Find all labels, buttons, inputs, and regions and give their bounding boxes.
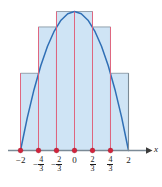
fraction-numerator: 4: [107, 156, 113, 164]
fraction-denominator: 3: [56, 164, 62, 173]
tick-fraction: 23: [90, 156, 96, 173]
tick-value: 0: [72, 155, 77, 165]
tick-fraction: 43: [107, 156, 113, 173]
partition-point-dot: [72, 148, 77, 153]
partition-point-dot: [54, 148, 59, 153]
tick-value: 2: [126, 155, 131, 165]
partition-point-dot: [36, 148, 41, 153]
partition-point-dot: [108, 148, 113, 153]
riemann-sum-figure: −2−43−23023432 x: [0, 0, 162, 187]
fraction-denominator: 3: [90, 164, 96, 173]
partition-point-dot: [90, 148, 95, 153]
rectangle-fill: [75, 12, 93, 151]
fraction-denominator: 3: [107, 164, 113, 173]
x-axis-arrow-icon: [146, 147, 153, 153]
x-tick-label: 2: [115, 156, 143, 165]
partition-point-dot: [18, 148, 23, 153]
x-axis-label: x: [154, 144, 158, 154]
rectangle-fill: [56, 12, 74, 151]
fraction-numerator: 2: [90, 156, 96, 164]
